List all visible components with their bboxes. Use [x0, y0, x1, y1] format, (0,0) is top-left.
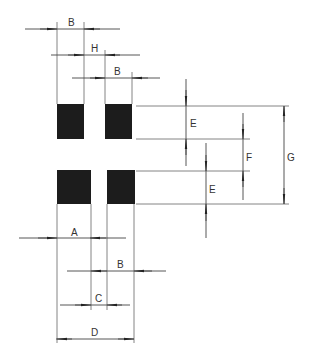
label-b-top: B	[68, 17, 75, 28]
pad-bottom-left	[57, 170, 91, 204]
label-a: A	[71, 227, 78, 238]
dimension-labels: B H B E F G E A B C D	[68, 17, 295, 338]
label-e-top: E	[190, 118, 197, 129]
label-g: G	[287, 152, 295, 163]
pad-top-left	[57, 104, 84, 139]
dimension-diagram: B H B E F G E A B C D	[0, 0, 311, 362]
label-e-bottom: E	[209, 184, 216, 195]
label-b-mid: B	[114, 66, 121, 77]
pad-top-right	[105, 104, 132, 139]
label-d: D	[91, 327, 98, 338]
pads	[57, 104, 135, 204]
label-f: F	[246, 152, 252, 163]
label-h: H	[91, 43, 98, 54]
extension-lines	[57, 22, 289, 343]
label-c: C	[95, 293, 102, 304]
pad-bottom-right	[107, 170, 135, 204]
label-b-bottom: B	[117, 259, 124, 270]
